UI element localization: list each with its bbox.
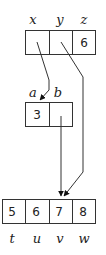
value-v: 7 — [55, 205, 63, 219]
value-t: 5 — [8, 205, 16, 219]
label-x: x — [29, 12, 37, 27]
label-a: a — [29, 85, 37, 100]
value-a: 3 — [33, 108, 41, 122]
value-u: 6 — [32, 205, 40, 219]
value-z: 6 — [80, 36, 88, 50]
value-w: 8 — [79, 205, 87, 219]
label-b: b — [54, 85, 62, 100]
label-z: z — [80, 12, 88, 27]
label-u: u — [33, 231, 41, 246]
label-v: v — [56, 231, 64, 246]
label-t: t — [9, 231, 15, 246]
label-w: w — [78, 231, 89, 246]
label-y: y — [55, 12, 64, 27]
pointer-diagram: x y z 6 a b 3 5 6 7 8 t u v w — [0, 0, 106, 255]
